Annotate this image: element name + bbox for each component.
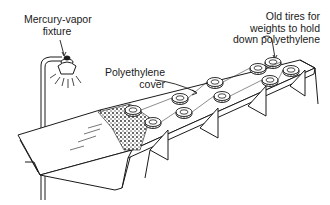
tire	[125, 106, 141, 117]
tire	[145, 118, 161, 129]
tire	[176, 108, 192, 119]
trough-illustration	[0, 0, 330, 205]
tire	[283, 66, 299, 77]
tire	[172, 94, 188, 105]
tire	[262, 76, 278, 87]
tire	[250, 64, 266, 75]
tire	[214, 92, 230, 103]
tire	[207, 78, 223, 89]
